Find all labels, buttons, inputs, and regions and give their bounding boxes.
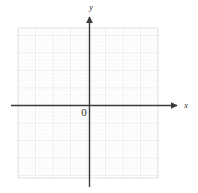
grid-area: [18, 28, 158, 178]
coordinate-plane-svg: x y 0: [0, 0, 198, 193]
origin-label: 0: [81, 106, 87, 118]
coordinate-plane-figure: x y 0: [0, 0, 198, 193]
y-axis-label: y: [88, 3, 93, 12]
grid-group: [18, 28, 158, 178]
x-axis-label: x: [183, 101, 188, 110]
